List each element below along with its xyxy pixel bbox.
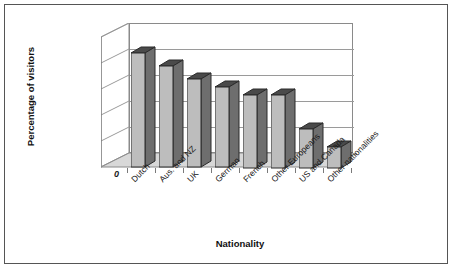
x-axis-title: Nationality	[155, 238, 325, 249]
x-tick-5	[267, 168, 268, 173]
x-tick-2	[183, 168, 184, 173]
bar-dutch	[131, 39, 157, 171]
x-tick-6	[295, 168, 296, 173]
bar-chart: Percentage of visitors 25 20 15 10 5 0	[5, 5, 449, 265]
x-tick-3	[211, 168, 212, 173]
x-tick-0	[127, 168, 128, 173]
x-tick-8	[351, 168, 352, 173]
chart-frame: Percentage of visitors 25 20 15 10 5 0	[4, 4, 448, 264]
x-tick-4	[239, 168, 240, 173]
x-tick-7	[323, 168, 324, 173]
y-axis-title: Percentage of visitors	[25, 32, 36, 162]
x-tick-1	[155, 168, 156, 173]
gridline-20	[130, 49, 354, 50]
